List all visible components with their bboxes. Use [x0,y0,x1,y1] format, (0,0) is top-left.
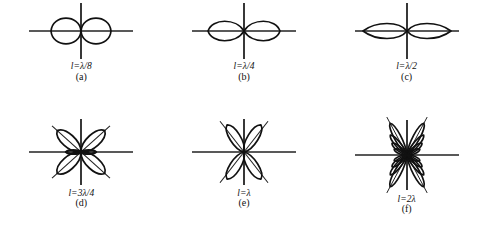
panel-e-caption: l=λ (e) [237,188,250,210]
lobe-2 [226,152,244,179]
panel-f-caption: l=2λ (f) [398,194,416,216]
panel-d-index: (d) [68,198,94,209]
panel-f: l=2λ (f) [325,115,488,230]
panel-b-expression: l=λ/4 [233,61,254,71]
radiation-pattern-figure: l=λ/8 (a) l=λ/4 (b) l=λ/2 (c) l=3λ/4 (d) [0,0,488,229]
panel-a-caption: l=λ/8 (a) [71,61,92,83]
panel-a: l=λ/8 (a) [0,0,163,115]
panel-f-index: (f) [398,204,416,215]
panel-e-expression: l=λ [237,188,250,198]
panel-b: l=λ/4 (b) [163,0,326,115]
panel-d-caption: l=3λ/4 (d) [68,188,94,210]
panel-c: l=λ/2 (c) [325,0,488,115]
panel-d: l=3λ/4 (d) [0,115,163,230]
panel-c-plot [348,0,466,62]
panel-b-index: (b) [233,72,254,83]
panel-c-caption: l=λ/2 (c) [396,61,417,83]
panel-e-plot [185,115,303,189]
panel-b-caption: l=λ/4 (b) [233,61,254,83]
panel-a-plot [22,0,140,62]
panel-e: l=λ (e) [163,115,326,230]
panel-c-index: (c) [396,72,417,83]
lobe-0 [244,124,262,151]
lobe-1 [226,124,244,151]
panel-b-plot [185,0,303,62]
lobe-3 [244,152,262,179]
panel-grid: l=λ/8 (a) l=λ/4 (b) l=λ/2 (c) l=3λ/4 (d) [0,0,488,229]
panel-d-plot [22,115,140,189]
panel-c-expression: l=λ/2 [396,61,417,71]
panel-e-index: (e) [237,198,250,209]
panel-d-expression: l=3λ/4 [68,188,94,198]
panel-a-index: (a) [71,72,92,83]
panel-f-plot [348,115,466,195]
panel-a-expression: l=λ/8 [71,61,92,71]
panel-f-expression: l=2λ [398,194,416,204]
